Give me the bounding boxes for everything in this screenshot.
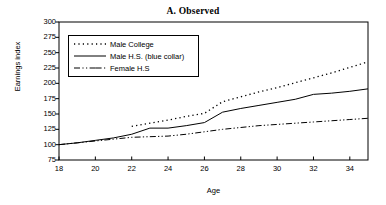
- legend-item-female-hs: Female H.S: [73, 62, 150, 74]
- chart-legend: Male College Male H.S. (blue collar) Fem…: [68, 35, 199, 77]
- chart-container: A. Observed Earnings index Age 751001251…: [0, 0, 386, 205]
- legend-item-male-college: Male College: [73, 38, 154, 50]
- plot-area: [0, 0, 386, 205]
- legend-label: Female H.S: [110, 64, 150, 73]
- legend-item-male-hs: Male H.S. (blue collar): [73, 50, 184, 62]
- dash-dot-line-swatch-icon: [73, 63, 107, 73]
- series-line-1: [59, 89, 368, 145]
- legend-label: Male H.S. (blue collar): [110, 52, 184, 61]
- solid-line-swatch-icon: [73, 51, 107, 61]
- dotted-line-swatch-icon: [73, 39, 107, 49]
- legend-label: Male College: [110, 40, 154, 49]
- series-line-2: [59, 118, 368, 144]
